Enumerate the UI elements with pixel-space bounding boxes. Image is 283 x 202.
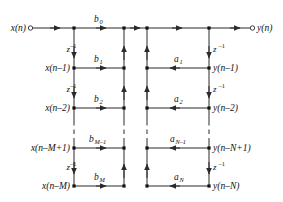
right-signal-label-n1: y(n–1) — [212, 63, 238, 74]
svg-text:–1: –1 — [218, 42, 225, 49]
svg-text:N–1: N–1 — [174, 138, 186, 145]
svg-text:–1: –1 — [218, 82, 225, 89]
coefficient-a2: a 2 — [174, 94, 183, 105]
svg-text:z: z — [212, 84, 217, 94]
left-signal-label-n2: x(n–2) — [44, 103, 70, 114]
svg-text:1: 1 — [100, 58, 103, 65]
svg-text:1: 1 — [179, 58, 182, 65]
coefficient-bM1: b M–1 — [89, 134, 106, 145]
signal-flow-graph: x(n) y(n) x(n–1) x(n–2) x(n–M+1) x(n–M) … — [0, 0, 283, 202]
right-delay-operator-1: z –1 — [212, 42, 225, 55]
svg-text:M: M — [99, 176, 106, 183]
feedback-branches — [147, 68, 209, 186]
left-delay-operator-1: z –1 — [65, 42, 76, 55]
svg-text:b: b — [94, 172, 99, 182]
svg-text:M–1: M–1 — [94, 138, 107, 145]
right-delay-operator-2: z –1 — [212, 82, 225, 95]
svg-text:z: z — [212, 44, 217, 54]
coefficient-b0: b 0 — [94, 14, 104, 25]
right-signal-label-nN: y(n–N) — [212, 181, 239, 192]
svg-text:b: b — [94, 14, 99, 24]
right-signal-label-nN1: y(n–N+1) — [212, 143, 251, 154]
coefficient-b2: b 2 — [94, 94, 104, 105]
output-terminal — [250, 26, 254, 30]
left-delay-operator-M: z –1 — [65, 160, 76, 173]
left-signal-label-n1: x(n–1) — [44, 63, 70, 74]
feedforward-branches — [74, 68, 124, 186]
input-signal-label: x(n) — [10, 23, 26, 34]
svg-text:a: a — [174, 94, 179, 104]
left-signal-label-nM1: x(n–M+1) — [30, 143, 70, 154]
svg-text:a: a — [170, 134, 175, 144]
svg-text:–1: –1 — [69, 82, 76, 89]
figure-canvas: x(n) y(n) x(n–1) x(n–2) x(n–M+1) x(n–M) … — [0, 0, 283, 202]
coefficient-a1: a 1 — [174, 54, 183, 65]
output-signal-label: y(n) — [256, 23, 272, 34]
svg-text:–1: –1 — [69, 42, 76, 49]
svg-text:b: b — [94, 54, 99, 64]
svg-text:a: a — [174, 172, 179, 182]
left-signal-label-nM: x(n–M) — [41, 181, 70, 192]
coefficient-b1: b 1 — [94, 54, 103, 65]
coefficient-bM: b M — [94, 172, 106, 183]
junction-nodes — [72, 26, 210, 187]
input-terminal — [28, 26, 32, 30]
svg-text:–1: –1 — [69, 160, 76, 167]
svg-text:b: b — [94, 94, 99, 104]
svg-text:2: 2 — [179, 98, 183, 105]
left-delay-operator-2: z –1 — [65, 82, 76, 95]
right-signal-label-n2: y(n–2) — [212, 103, 238, 114]
coefficient-aN1: a N–1 — [170, 134, 186, 145]
svg-text:N: N — [178, 176, 184, 183]
svg-text:–1: –1 — [218, 160, 225, 167]
svg-text:b: b — [89, 134, 94, 144]
coefficient-aN: a N — [174, 172, 184, 183]
svg-text:2: 2 — [100, 98, 104, 105]
right-delay-operator-N: z –1 — [212, 160, 225, 173]
svg-text:a: a — [174, 54, 179, 64]
svg-text:0: 0 — [100, 18, 104, 25]
svg-text:z: z — [212, 162, 217, 172]
